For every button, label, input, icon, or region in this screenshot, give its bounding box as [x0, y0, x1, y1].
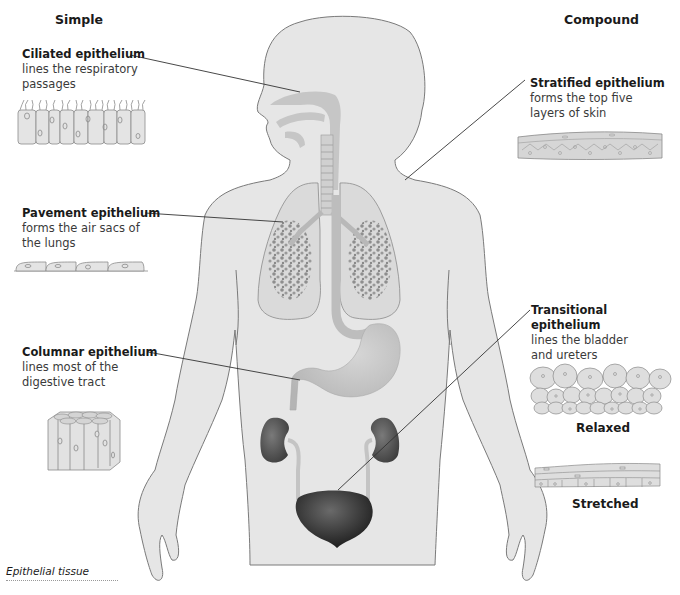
- label-pavement-epithelium: Pavement epithelium forms the air sacs o…: [22, 206, 160, 251]
- label-desc-line: forms the top five: [530, 91, 665, 106]
- transitional-relaxed-illustration: [530, 364, 671, 414]
- figure-caption: Epithelial tissue: [6, 565, 118, 581]
- label-stretched: Stretched: [572, 497, 639, 511]
- heading-compound: Compound: [564, 12, 639, 27]
- columnar-epithelium-illustration: [48, 412, 120, 470]
- label-desc-line: layers of skin: [530, 106, 665, 121]
- label-transitional-epithelium: Transitional epithelium lines the bladde…: [531, 303, 680, 363]
- label-desc-line: digestive tract: [22, 375, 158, 390]
- label-desc-line: and ureters: [531, 348, 680, 363]
- heading-simple: Simple: [55, 12, 103, 27]
- transitional-stretched-illustration: [535, 463, 660, 487]
- label-desc-line: lines most of the: [22, 360, 158, 375]
- label-title: Ciliated epithelium: [22, 47, 145, 62]
- label-stratified-epithelium: Stratified epithelium forms the top five…: [530, 76, 665, 121]
- label-desc-line: the lungs: [22, 236, 160, 251]
- label-title: Columnar epithelium: [22, 345, 158, 360]
- stratified-epithelium-illustration: [518, 132, 662, 160]
- label-title: Pavement epithelium: [22, 206, 160, 221]
- pavement-epithelium-illustration: [14, 262, 148, 271]
- label-columnar-epithelium: Columnar epithelium lines most of the di…: [22, 345, 158, 390]
- label-desc-line: lines the respiratory: [22, 62, 145, 77]
- label-desc-line: passages: [22, 77, 145, 92]
- label-title: Transitional epithelium: [531, 303, 680, 333]
- label-relaxed: Relaxed: [576, 421, 630, 435]
- label-desc-line: forms the air sacs of: [22, 221, 160, 236]
- trachea: [321, 135, 333, 215]
- label-ciliated-epithelium: Ciliated epithelium lines the respirator…: [22, 47, 145, 92]
- ciliated-epithelium-illustration: [18, 100, 145, 144]
- label-title: Stratified epithelium: [530, 76, 665, 91]
- label-desc-line: lines the bladder: [531, 333, 680, 348]
